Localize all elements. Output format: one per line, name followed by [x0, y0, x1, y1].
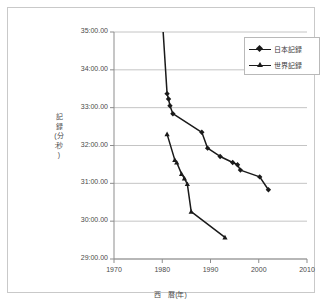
- data-point-marker: [166, 96, 171, 101]
- y-axis-title-line: 録: [52, 122, 66, 132]
- y-tick-label: 35:00.00: [60, 27, 108, 34]
- data-point-marker: [179, 171, 184, 176]
- y-axis-title-line: ): [52, 150, 66, 160]
- chart-legend: 日本記録 世界記録: [244, 37, 320, 75]
- legend-item-world-record[interactable]: 世界記録: [249, 58, 302, 72]
- y-tick-label: 29:00.00: [60, 254, 108, 261]
- y-tick-label: 32:00.00: [60, 141, 108, 148]
- data-point-marker: [164, 132, 169, 137]
- series-line: [167, 134, 225, 237]
- y-tick-marks-group: [110, 32, 114, 259]
- series-world-record: [164, 132, 227, 240]
- legend-item-japan-record[interactable]: 日本記録: [249, 42, 302, 56]
- x-tick-label: 1990: [193, 266, 229, 273]
- y-tick-label: 34:00.00: [60, 65, 108, 72]
- x-axis-title: 西 暦(年): [8, 289, 325, 299]
- x-tick-label: 1980: [144, 266, 180, 273]
- y-axis-title: 記録(分:秒): [52, 112, 66, 160]
- x-tick-label: 2010: [289, 266, 325, 273]
- legend-marker-triangle-icon: [249, 60, 271, 70]
- chart-container: 29:00.0030:00.0031:00.0032:00.0033:00.00…: [7, 7, 315, 293]
- y-tick-label: 31:00.00: [60, 178, 108, 185]
- x-tick-marks-group: [114, 259, 307, 263]
- legend-marker-square-icon: [249, 44, 271, 54]
- y-axis-title-line: :秒: [52, 141, 66, 151]
- y-axis-title-line: (分: [52, 131, 66, 141]
- data-point-marker: [189, 209, 194, 214]
- y-tick-label: 33:00.00: [60, 103, 108, 110]
- legend-label-japan-record: 日本記録: [274, 44, 302, 54]
- x-tick-label: 2000: [241, 266, 277, 273]
- data-point-marker: [230, 160, 235, 165]
- legend-label-world-record: 世界記録: [274, 60, 302, 70]
- x-tick-label: 1970: [96, 266, 132, 273]
- y-axis-title-line: 記: [52, 112, 66, 122]
- data-point-marker: [164, 91, 169, 96]
- y-tick-label: 30:00.00: [60, 216, 108, 223]
